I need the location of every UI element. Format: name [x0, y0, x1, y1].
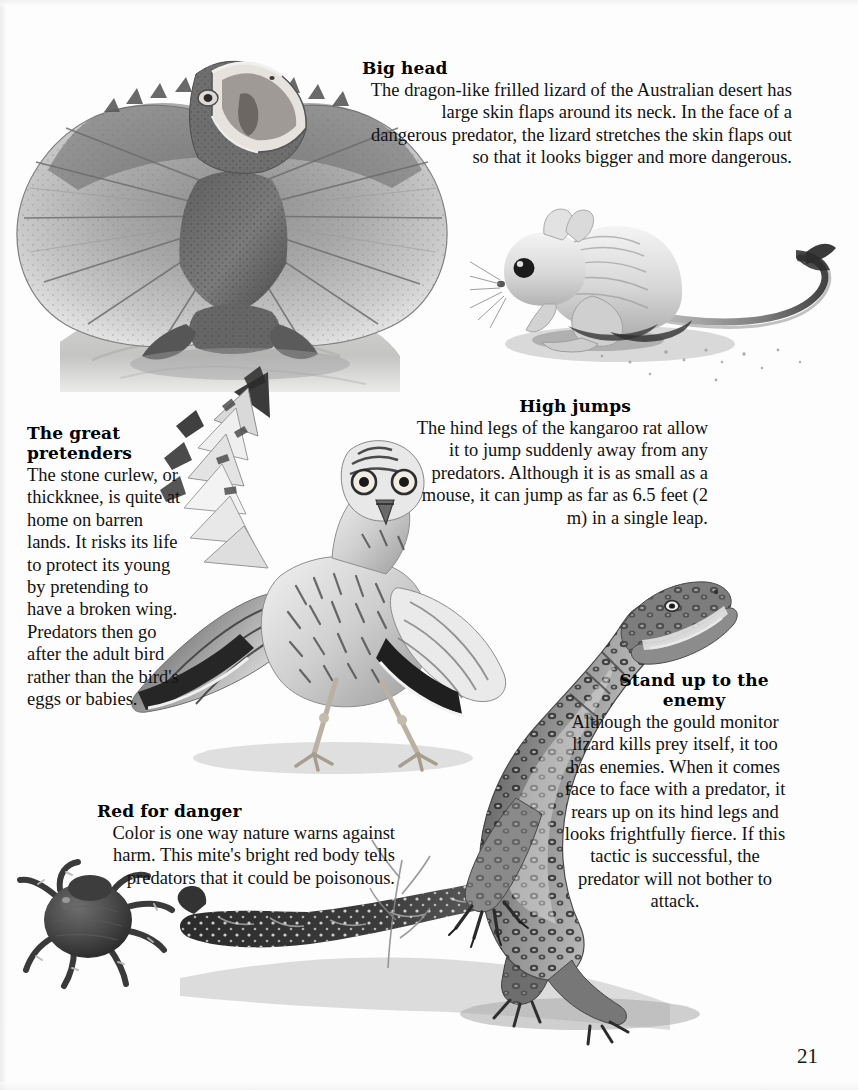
scan-edge-bottom	[0, 1082, 858, 1090]
caption-heading-stand-up: Stand up to the enemy	[560, 670, 790, 710]
caption-high-jumps: High jumps The hind legs of the kangaroo…	[408, 396, 708, 529]
caption-heading-red-for-danger: Red for danger	[97, 801, 395, 821]
caption-red-for-danger: Red for danger Color is one way nature w…	[97, 801, 395, 889]
caption-big-head: Big head The dragon-like frilled lizard …	[362, 58, 792, 169]
caption-stand-up-to-the-enemy: Stand up to the enemy Although the gould…	[560, 670, 790, 913]
caption-heading-great-pretenders: The great pretenders	[27, 423, 187, 463]
page-number: 21	[797, 1044, 818, 1068]
caption-body-big-head: The dragon-like frilled lizard of the Au…	[362, 79, 792, 169]
caption-body-stand-up: Although the gould monitor lizard kills …	[560, 711, 790, 913]
caption-heading-big-head: Big head	[362, 58, 792, 78]
caption-heading-high-jumps: High jumps	[408, 396, 708, 416]
book-page: Big head The dragon-like frilled lizard …	[0, 0, 858, 1090]
scan-edge-top	[0, 0, 858, 6]
caption-body-high-jumps: The hind legs of the kangaroo rat allow …	[408, 417, 708, 529]
caption-body-red-for-danger: Color is one way nature warns against ha…	[97, 822, 395, 889]
caption-body-great-pretenders: The stone curlew, or thickknee, is quite…	[27, 464, 187, 710]
caption-great-pretenders: The great pretenders The stone curlew, o…	[27, 423, 187, 710]
